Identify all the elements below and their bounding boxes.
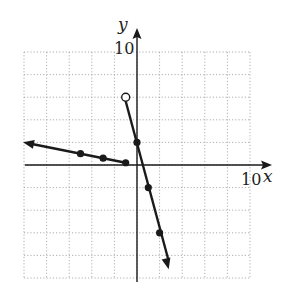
y-axis-label: y	[117, 14, 128, 34]
closed-point	[133, 139, 140, 146]
closed-point	[156, 229, 163, 236]
closed-point	[122, 159, 129, 166]
closed-point	[145, 184, 152, 191]
axes	[25, 28, 272, 282]
x-axis-label: x	[263, 166, 273, 186]
closed-point	[77, 150, 84, 157]
piecewise-graph: y 10 10 x	[0, 0, 289, 287]
open-point	[122, 93, 130, 101]
down-arrow-icon	[162, 257, 171, 269]
closed-point	[100, 155, 107, 162]
x-max-label: 10	[241, 170, 261, 189]
left-arrow-icon	[23, 140, 35, 149]
y-max-label: 10	[114, 39, 134, 58]
curves	[23, 93, 170, 269]
